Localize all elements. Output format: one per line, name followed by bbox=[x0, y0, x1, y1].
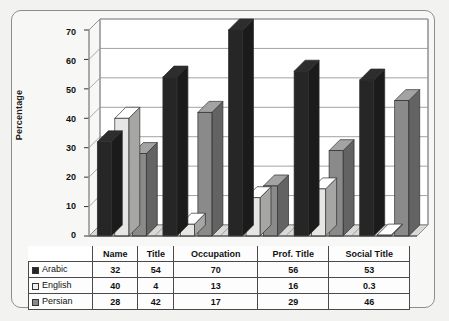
cell-persian-name: 28 bbox=[93, 294, 138, 310]
data-table: Name Title Occupation Prof. Title Social… bbox=[28, 246, 410, 310]
table-corner-cell bbox=[29, 246, 93, 262]
cell-english-name: 40 bbox=[93, 278, 138, 294]
cell-english-title: 4 bbox=[138, 278, 174, 294]
table-row: English 40 4 13 16 0.3 bbox=[29, 278, 410, 294]
legend-label-arabic: Arabic bbox=[42, 264, 68, 274]
legend-label-english: English bbox=[42, 280, 72, 290]
cell-english-prof-title: 16 bbox=[258, 278, 329, 294]
cell-persian-title: 42 bbox=[138, 294, 174, 310]
column-header-prof-title: Prof. Title bbox=[258, 246, 329, 262]
table-header-row: Name Title Occupation Prof. Title Social… bbox=[29, 246, 410, 262]
legend-swatch-english-icon bbox=[32, 283, 39, 290]
legend-swatch-arabic-icon bbox=[32, 267, 39, 274]
legend-item-english: English bbox=[29, 278, 93, 294]
chart-screenshot: Percentage 70 60 50 40 30 20 10 0 Name T… bbox=[0, 0, 449, 321]
legend-item-persian: Persian bbox=[29, 294, 93, 310]
cell-arabic-occupation: 70 bbox=[174, 262, 258, 278]
cell-english-social-title: 0.3 bbox=[329, 278, 410, 294]
legend-swatch-persian-icon bbox=[32, 299, 39, 306]
column-header-title: Title bbox=[138, 246, 174, 262]
legend-item-arabic: Arabic bbox=[29, 262, 93, 278]
cell-arabic-title: 54 bbox=[138, 262, 174, 278]
table-row: Arabic 32 54 70 56 53 bbox=[29, 262, 410, 278]
cell-arabic-prof-title: 56 bbox=[258, 262, 329, 278]
cell-english-occupation: 13 bbox=[174, 278, 258, 294]
cell-persian-prof-title: 29 bbox=[258, 294, 329, 310]
cell-arabic-social-title: 53 bbox=[329, 262, 410, 278]
column-header-social-title: Social Title bbox=[329, 246, 410, 262]
cell-persian-occupation: 17 bbox=[174, 294, 258, 310]
cell-arabic-name: 32 bbox=[93, 262, 138, 278]
legend-label-persian: Persian bbox=[42, 296, 73, 306]
table-row: Persian 28 42 17 29 46 bbox=[29, 294, 410, 310]
column-header-name: Name bbox=[93, 246, 138, 262]
cell-persian-social-title: 46 bbox=[329, 294, 410, 310]
column-header-occupation: Occupation bbox=[174, 246, 258, 262]
